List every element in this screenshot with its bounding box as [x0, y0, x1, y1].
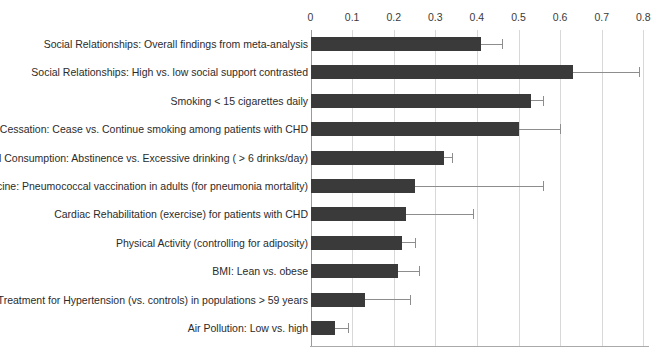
error-bar-cap-0 [502, 39, 503, 49]
x-tick-label-2: 0.2 [386, 10, 401, 24]
category-label-5: Flu Vaccine: Pneumococcal vaccination in… [0, 172, 308, 200]
category-label-8: BMI: Lean vs. obese [212, 257, 308, 285]
chart-row: Drug Treatment for Hypertension (vs. con… [0, 286, 649, 314]
x-tick-label-1: 0.1 [345, 10, 360, 24]
x-tick-label-7: 0.7 [594, 10, 609, 24]
x-tick-label-8: 0.8 [636, 10, 651, 24]
bar-10 [311, 321, 336, 335]
error-bar-cap-2 [543, 96, 544, 106]
category-label-10: Air Pollution: Low vs. high [188, 314, 308, 342]
category-label-4: Alcohol Consumption: Abstinence vs. Exce… [0, 144, 308, 172]
error-bar-cap-9 [410, 295, 411, 305]
bar-0 [311, 37, 482, 51]
x-axis-tick-labels: 00.10.20.30.40.50.60.70.8 [0, 10, 649, 24]
chart-row: Cardiac Rehabilitation (exercise) for pa… [0, 200, 649, 228]
error-bar-cap-7 [415, 238, 416, 248]
bar-2 [311, 94, 531, 108]
plot-area: Social Relationships: Overall findings f… [0, 30, 649, 347]
category-label-3: Smoking Cessation: Cease vs. Continue sm… [0, 115, 308, 143]
category-label-0: Social Relationships: Overall findings f… [44, 30, 308, 58]
error-bar-cap-10 [348, 323, 349, 333]
chart-row: BMI: Lean vs. obese [0, 257, 649, 285]
category-label-9: Drug Treatment for Hypertension (vs. con… [0, 286, 308, 314]
error-bar-cap-6 [473, 209, 474, 219]
chart-row: Physical Activity (controlling for adipo… [0, 229, 649, 257]
bar-7 [311, 236, 403, 250]
error-bar-cap-5 [543, 181, 544, 191]
chart-title [318, 0, 358, 8]
x-tick-label-0: 0 [308, 10, 314, 24]
chart-row: Smoking Cessation: Cease vs. Continue sm… [0, 115, 649, 143]
bar-3 [311, 122, 519, 136]
x-tick-label-5: 0.5 [511, 10, 526, 24]
bar-5 [311, 179, 415, 193]
category-label-1: Social Relationships: High vs. low socia… [31, 58, 308, 86]
category-label-6: Cardiac Rehabilitation (exercise) for pa… [54, 200, 308, 228]
chart-row: Social Relationships: Overall findings f… [0, 30, 649, 58]
bar-1 [311, 65, 573, 79]
chart-row: Smoking < 15 cigarettes daily [0, 87, 649, 115]
x-tick-label-6: 0.6 [553, 10, 568, 24]
chart-row: Air Pollution: Low vs. high [0, 314, 649, 342]
chart-row: Social Relationships: High vs. low socia… [0, 58, 649, 86]
error-bar-cap-1 [639, 67, 640, 77]
error-bar-cap-3 [560, 124, 561, 134]
x-tick-label-4: 0.4 [470, 10, 485, 24]
error-bar-cap-4 [452, 153, 453, 163]
bar-9 [311, 293, 365, 307]
category-label-7: Physical Activity (controlling for adipo… [116, 229, 308, 257]
x-tick-label-3: 0.3 [428, 10, 443, 24]
bar-6 [311, 207, 407, 221]
error-bar-cap-8 [419, 266, 420, 276]
bar-4 [311, 151, 444, 165]
chart-row: Flu Vaccine: Pneumococcal vaccination in… [0, 172, 649, 200]
bar-8 [311, 264, 398, 278]
chart-row: Alcohol Consumption: Abstinence vs. Exce… [0, 144, 649, 172]
category-label-2: Smoking < 15 cigarettes daily [171, 87, 308, 115]
